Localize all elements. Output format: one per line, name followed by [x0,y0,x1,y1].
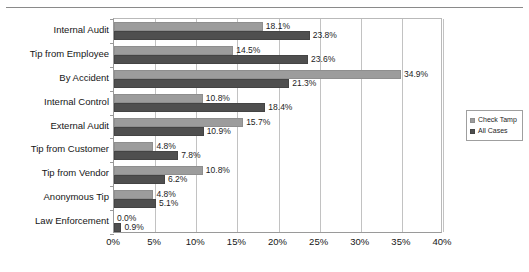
bar-value-label: 14.5% [236,46,260,55]
x-axis-tick-label: 0% [106,236,120,247]
x-axis-tick-label: 35% [391,236,410,247]
legend-swatch-icon [470,129,475,134]
category-label: By Accident [0,73,109,83]
bar-value-label: 10.8% [206,94,230,103]
category-label: Tip from Employee [0,49,109,59]
x-axis-tick-labels: 0%5%10%15%20%25%30%35%40% [113,236,443,250]
bar [114,22,263,31]
bar-value-label: 18.4% [268,103,292,112]
category-tick-mark [110,67,114,68]
category-tick-mark [110,19,114,20]
category-label: External Audit [0,121,109,131]
bar-value-label: 23.8% [313,31,337,40]
bar [114,55,308,64]
x-axis-tick-label: 30% [350,236,369,247]
x-axis-tick-label: 10% [186,236,205,247]
bar-value-label: 10.9% [207,127,231,136]
category-tick-mark [110,186,114,187]
bar-value-label: 0.9% [124,223,143,232]
gridline [279,19,280,232]
legend-item-label: Check Tamp [478,116,517,124]
category-tick-mark [110,91,114,92]
bar [114,94,203,103]
x-axis-tick-label: 25% [309,236,328,247]
bar-value-label: 10.8% [206,166,230,175]
bar-value-label: 23.6% [311,55,335,64]
category-label: Anonymous Tip [0,192,109,202]
bar [114,127,204,136]
bar [114,166,203,175]
bar [114,175,165,184]
legend-item-label: All Cases [478,127,508,135]
bar [114,31,310,40]
gridline [320,19,321,232]
x-axis-tick-label: 15% [227,236,246,247]
gridline [443,19,444,232]
category-label: Tip from Customer [0,144,109,154]
x-axis-tick-label: 40% [432,236,451,247]
category-tick-mark [110,43,114,44]
category-label: Tip from Vendor [0,168,109,178]
bar [114,142,153,151]
category-label: Internal Audit [0,25,109,35]
category-tick-mark [110,210,114,211]
bar [114,103,265,112]
category-tick-mark [110,138,114,139]
gridline [402,19,403,232]
bar-value-label: 7.8% [181,151,200,160]
bar-value-label: 15.7% [246,118,270,127]
bar-value-label: 4.8% [156,142,175,151]
bar-value-label: 18.1% [266,22,290,31]
bar-value-label: 6.2% [168,175,187,184]
legend-swatch-icon [470,118,475,123]
bar [114,79,289,88]
bar [114,151,178,160]
bar-value-label: 21.3% [292,79,316,88]
bar [114,46,233,55]
bar-chart: Internal AuditTip from EmployeeBy Accide… [0,0,529,272]
legend-item: Check Tamp [470,115,519,125]
gridline [361,19,362,232]
category-label: Internal Control [0,97,109,107]
bar-value-label: 34.9% [404,70,428,79]
bar [114,199,156,208]
category-tick-mark [110,234,114,235]
legend: Check Tamp All Cases [466,110,523,141]
bar-value-label: 5.1% [159,199,178,208]
x-axis-tick-label: 5% [147,236,161,247]
legend-item: All Cases [470,126,519,136]
bar [114,70,401,79]
category-tick-mark [110,115,114,116]
category-axis-labels: Internal AuditTip from EmployeeBy Accide… [0,18,109,233]
bar [114,190,153,199]
bar [114,223,121,232]
category-label: Law Enforcement [0,216,109,226]
plot-area: 18.1%23.8%14.5%23.6%34.9%21.3%10.8%18.4%… [113,18,442,233]
category-tick-mark [110,162,114,163]
x-axis-tick-label: 20% [268,236,287,247]
